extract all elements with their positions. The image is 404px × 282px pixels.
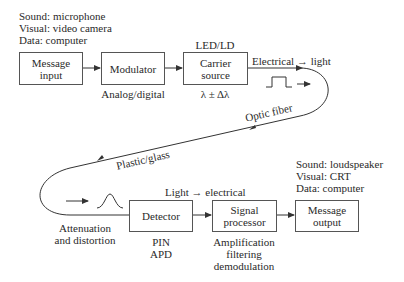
modulator-caption: Analog/digital — [96, 88, 170, 100]
message-input-label-2: input — [32, 69, 71, 81]
carrier-source-block: Carrier source — [183, 52, 248, 85]
message-output-label-1: Message — [308, 204, 347, 216]
message-input-block: Message input — [19, 52, 83, 85]
output-sink-data: Data: computer — [296, 182, 364, 194]
modulator-label: Modulator — [110, 63, 156, 75]
attenuation-label-1: Attenuation — [50, 222, 120, 234]
gaussian-pulse-icon — [97, 194, 123, 208]
detector-caption-pin: PIN — [129, 236, 193, 248]
processor-caption-2: filtering — [204, 248, 284, 260]
carrier-caption: λ ± Δλ — [183, 88, 247, 100]
square-pulse-icon — [266, 77, 292, 87]
carrier-label-1: Carrier — [200, 57, 231, 69]
output-sink-sound: Sound: loudspeaker — [296, 158, 383, 170]
output-sink-visual: Visual: CRT — [296, 170, 351, 182]
message-input-label-1: Message — [32, 57, 71, 69]
carrier-label-2: source — [200, 69, 231, 81]
message-output-block: Message output — [295, 200, 359, 232]
detector-caption-apd: APD — [129, 248, 193, 260]
electrical-to-light-label: Electrical → light — [252, 55, 331, 67]
signal-processor-label-2: processor — [223, 216, 265, 228]
input-source-sound: Sound: microphone — [19, 10, 105, 22]
processor-caption-1: Amplification — [204, 236, 284, 248]
attenuation-label-2: and distortion — [50, 234, 120, 246]
signal-processor-label-1: Signal — [223, 204, 265, 216]
modulator-block: Modulator — [101, 52, 165, 85]
signal-processor-block: Signal processor — [212, 200, 277, 232]
input-source-data: Data: computer — [19, 34, 87, 46]
processor-caption-3: demodulation — [204, 260, 284, 272]
light-to-electrical-label: Light → electrical — [165, 186, 246, 198]
detector-label: Detector — [142, 210, 180, 222]
carrier-top-label: LED/LD — [183, 39, 247, 51]
detector-block: Detector — [129, 200, 193, 232]
input-source-visual: Visual: video camera — [19, 22, 112, 34]
message-output-label-2: output — [308, 216, 347, 228]
